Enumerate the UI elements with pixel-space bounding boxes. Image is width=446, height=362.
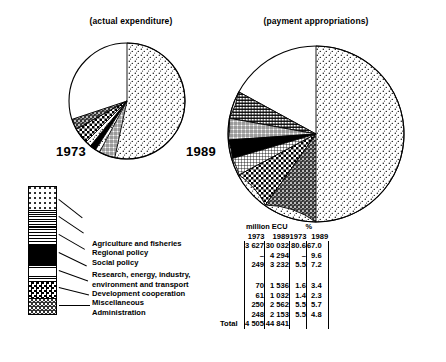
cell-misc-pct-1973: 5.5 — [289, 300, 306, 310]
cell-misc-pct-1989: 5.7 — [306, 300, 328, 310]
legend-swatch-social — [29, 228, 56, 246]
col-header-pct-1989: 1989 — [306, 232, 328, 242]
table-row: 70 1 536 1.6 3.4 — [208, 281, 328, 291]
cell-research-pct-1973: 1.6 — [289, 281, 306, 291]
data-table: million ECU % 1973 1989 1973 1989 3 627 … — [208, 222, 329, 329]
cell-admin-pct-1989: 4.8 — [306, 310, 328, 320]
table-group-header-row: million ECU % — [208, 222, 328, 232]
legend-swatch-miscellaneous — [29, 282, 56, 299]
table-column-header-row: 1973 1989 1973 1989 — [208, 232, 328, 242]
cell-development-pct-1989: 2.3 — [306, 291, 328, 301]
cell-misc-ecu-1973: 250 — [244, 300, 265, 310]
legend-label-list: Agriculture and fisheries Regional polic… — [92, 239, 190, 317]
cell-admin-ecu-1989: 2 153 — [265, 310, 290, 320]
cell-total-ecu-1989: 44 841 — [265, 319, 290, 329]
pie-1989-year-label: 1989 — [186, 144, 216, 159]
leader-line-administration — [59, 305, 90, 306]
cell-misc-ecu-1989: 2 562 — [265, 300, 290, 310]
cell-total-pct-1989 — [306, 319, 328, 329]
table-row: 248 2 153 5.5 4.8 — [208, 310, 328, 320]
legend-swatch-agriculture — [29, 187, 56, 211]
total-label: Total — [208, 319, 244, 329]
cell-regional-pct-1973: – — [289, 251, 306, 261]
cell-social-ecu-1973: 249 — [244, 260, 265, 270]
leader-line-agriculture — [58, 199, 82, 218]
budget-table: million ECU % 1973 1989 1973 1989 3 627 … — [208, 222, 329, 329]
table-total-row: Total 4 505 44 841 — [208, 319, 328, 329]
legend-label-agriculture: Agriculture and fisheries — [92, 239, 190, 248]
legend-swatch-column — [28, 186, 57, 315]
cell-agriculture-ecu-1989: 30 032 — [265, 241, 290, 251]
leader-line-development — [59, 270, 88, 282]
legend-swatch-regional — [29, 211, 56, 228]
cell-regional-ecu-1989: 4 294 — [265, 251, 290, 261]
figure-canvas: (actual expenditure) (payment appropriat… — [0, 0, 446, 362]
left-chart-title: (actual expenditure) — [56, 16, 206, 26]
group-header-percent: % — [289, 222, 328, 232]
leader-line-regional — [58, 216, 83, 234]
legend-label-development: Development cooperation — [92, 289, 190, 298]
pie-1989-svg — [226, 42, 406, 226]
cell-research-ecu-1989: 1 536 — [265, 281, 290, 291]
legend-swatch-administration — [29, 299, 56, 314]
leader-line-research — [59, 252, 87, 266]
col-header-pct-1973: 1973 — [289, 232, 306, 242]
cell-social-pct-1989: 7.2 — [306, 260, 328, 270]
cell-admin-ecu-1973: 248 — [244, 310, 265, 320]
table-spacer-row — [208, 270, 328, 281]
cell-total-pct-1973 — [289, 319, 306, 329]
cell-agriculture-pct-1989: 67.0 — [306, 241, 328, 251]
legend-label-miscellaneous: Miscellaneous — [92, 298, 190, 307]
cell-admin-pct-1973: 5.5 — [289, 310, 306, 320]
right-chart-title: (payment appropriations) — [228, 16, 404, 26]
cell-social-ecu-1989: 3 232 — [265, 260, 290, 270]
cell-development-pct-1973: 1.4 — [289, 291, 306, 301]
legend-label-research-line2: environment and transport — [92, 280, 190, 289]
table-row: 61 1 032 1.4 2.3 — [208, 291, 328, 301]
legend-label-administration: Administration — [92, 308, 190, 317]
cell-regional-pct-1989: 9.6 — [306, 251, 328, 261]
cell-research-pct-1989: 3.4 — [306, 281, 328, 291]
legend-label-social: Social policy — [92, 258, 190, 267]
leader-line-social — [59, 234, 85, 250]
table-row: 249 3 232 5.5 7.2 — [208, 260, 328, 270]
cell-research-ecu-1973: 70 — [244, 281, 265, 291]
pie-1973-year-label: 1973 — [56, 144, 86, 159]
leader-line-miscellaneous — [59, 287, 89, 295]
group-header-million-ecu: million ECU — [244, 222, 289, 232]
cell-agriculture-ecu-1973: 3 627 — [244, 241, 265, 251]
pie-chart-1989 — [226, 42, 406, 226]
col-header-ecu-1989: 1989 — [265, 232, 290, 242]
legend-label-research-line1: Research, energy, industry, — [92, 270, 190, 279]
table-row: 250 2 562 5.5 5.7 — [208, 300, 328, 310]
legend-swatch-development — [29, 265, 56, 282]
table-row: – 4 294 – 9.6 — [208, 251, 328, 261]
legend-label-regional: Regional policy — [92, 248, 190, 257]
table-row: 3 627 30 032 80.6 67.0 — [208, 241, 328, 251]
legend-swatch-research — [29, 246, 56, 265]
cell-total-ecu-1973: 4 505 — [244, 319, 265, 329]
cell-social-pct-1973: 5.5 — [289, 260, 306, 270]
cell-regional-ecu-1973: – — [244, 251, 265, 261]
cell-development-ecu-1989: 1 032 — [265, 291, 290, 301]
cell-agriculture-pct-1973: 80.6 — [289, 241, 306, 251]
cell-development-ecu-1973: 61 — [244, 291, 265, 301]
col-header-ecu-1973: 1973 — [244, 232, 265, 242]
